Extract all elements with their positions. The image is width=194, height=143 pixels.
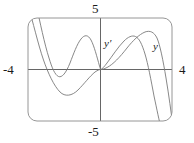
plot-canvas <box>0 0 194 143</box>
curve-label-y: y <box>153 41 158 52</box>
y-axis-max-label: 5 <box>92 2 99 15</box>
y-axis-min-label: -5 <box>88 125 99 138</box>
curve-label-y-prime: y′ <box>104 38 111 49</box>
x-axis-max-label: 4 <box>179 63 186 76</box>
x-axis-min-label: -4 <box>3 63 14 76</box>
graph-figure: 5 -5 -4 4 y′ y <box>0 0 194 143</box>
